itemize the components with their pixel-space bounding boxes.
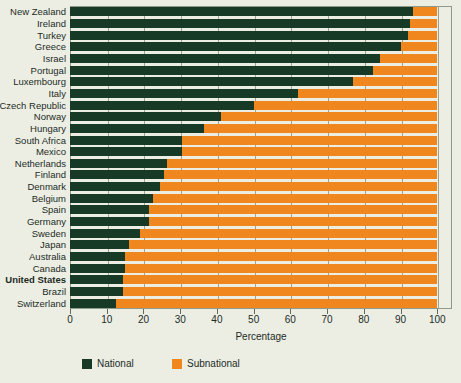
bar-segment-subnational: [116, 299, 437, 308]
bar-segment-subnational: [413, 7, 437, 16]
legend-label: Subnational: [187, 358, 240, 369]
x-tick-label: 10: [101, 314, 112, 325]
bar-segment-subnational: [204, 124, 437, 133]
bar-row: [70, 264, 452, 273]
category-label: Ireland: [37, 18, 66, 29]
x-axis-title: Percentage: [70, 331, 452, 342]
bar-segment-national: [70, 101, 254, 110]
category-label: Belgium: [32, 193, 66, 204]
category-label: Denmark: [27, 181, 66, 192]
bar-row: [70, 275, 452, 284]
bar-segment-national: [70, 287, 123, 296]
bar-segment-subnational: [408, 31, 437, 40]
bar-segment-subnational: [167, 159, 437, 168]
category-label: Luxembourg: [13, 76, 66, 87]
bar-segment-national: [70, 147, 182, 156]
bar-segment-subnational: [125, 252, 437, 261]
x-tick-label: 70: [322, 314, 333, 325]
bar-segment-subnational: [125, 264, 437, 273]
category-label: New Zealand: [10, 6, 66, 17]
bar-segment-national: [70, 124, 204, 133]
category-label: Netherlands: [15, 158, 66, 169]
bar-segment-subnational: [140, 229, 438, 238]
x-tick-label: 30: [175, 314, 186, 325]
bar-segment-national: [70, 77, 353, 86]
category-label: Greece: [35, 41, 66, 52]
bar-segment-national: [70, 194, 153, 203]
bar-segment-subnational: [380, 54, 437, 63]
category-label: Finland: [35, 169, 66, 180]
legend-item[interactable]: Subnational: [172, 358, 240, 369]
category-label: Sweden: [32, 228, 66, 239]
bar-row: [70, 287, 452, 296]
bar-segment-national: [70, 31, 408, 40]
bar-segment-subnational: [149, 217, 437, 226]
bar-row: [70, 77, 452, 86]
bar-row: [70, 217, 452, 226]
bar-segment-national: [70, 42, 401, 51]
bar-segment-national: [70, 66, 373, 75]
x-tick-label: 60: [285, 314, 296, 325]
bar-segment-national: [70, 252, 125, 261]
category-label: Italy: [49, 88, 66, 99]
category-label: United States: [5, 274, 66, 285]
x-tick-label: 40: [211, 314, 222, 325]
bar-row: [70, 136, 452, 145]
x-tick-label: 50: [248, 314, 259, 325]
bar-row: [70, 252, 452, 261]
bar-row: [70, 205, 452, 214]
category-label: Norway: [34, 111, 66, 122]
bar-segment-national: [70, 182, 160, 191]
category-label: Australia: [29, 251, 66, 262]
bar-segment-subnational: [160, 182, 437, 191]
bar-row: [70, 194, 452, 203]
bar-row: [70, 240, 452, 249]
bar-segment-national: [70, 112, 221, 121]
bar-row: [70, 147, 452, 156]
bar-segment-subnational: [123, 287, 437, 296]
bar-row: [70, 54, 452, 63]
bar-row: [70, 299, 452, 308]
legend-item[interactable]: National: [82, 358, 134, 369]
bar-segment-subnational: [149, 205, 437, 214]
bar-segment-national: [70, 54, 380, 63]
bar-segment-subnational: [373, 66, 437, 75]
category-label: Hungary: [30, 123, 66, 134]
bar-segment-national: [70, 205, 149, 214]
category-label: Japan: [40, 239, 66, 250]
bar-segment-subnational: [254, 101, 438, 110]
bar-segment-subnational: [182, 147, 437, 156]
bar-segment-subnational: [410, 19, 438, 28]
bar-segment-national: [70, 240, 129, 249]
category-label: Israel: [43, 53, 66, 64]
bar-segment-subnational: [401, 42, 438, 51]
bar-segment-national: [70, 89, 298, 98]
bar-segment-national: [70, 7, 413, 16]
bar-segment-national: [70, 264, 125, 273]
bar-segment-national: [70, 159, 167, 168]
bar-segment-subnational: [182, 136, 437, 145]
bar-segment-subnational: [221, 112, 438, 121]
bar-segment-subnational: [129, 240, 438, 249]
legend-label: National: [97, 358, 134, 369]
bar-segment-national: [70, 136, 182, 145]
category-label: Brazil: [42, 286, 66, 297]
x-axis-title-text: Percentage: [235, 331, 286, 342]
legend-swatch-icon: [172, 359, 182, 369]
bar-row: [70, 159, 452, 168]
bar-segment-subnational: [123, 275, 437, 284]
category-label: Canada: [33, 263, 66, 274]
bar-row: [70, 182, 452, 191]
x-axis-tick-labels: 0102030405060708090100: [0, 314, 461, 328]
bar-row: [70, 31, 452, 40]
bar-row: [70, 101, 452, 110]
bar-row: [70, 7, 452, 16]
bar-row: [70, 170, 452, 179]
bar-segment-national: [70, 19, 410, 28]
x-tick-label: 90: [395, 314, 406, 325]
category-axis-labels: New ZealandIrelandTurkeyGreeceIsraelPort…: [0, 6, 68, 309]
bar-row: [70, 229, 452, 238]
bar-rows: [70, 6, 452, 309]
category-label: Turkey: [37, 30, 66, 41]
x-tick-label: 100: [429, 314, 446, 325]
